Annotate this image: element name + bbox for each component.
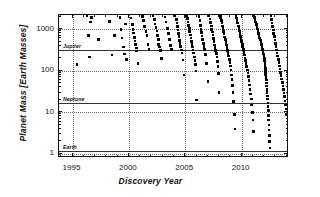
- data-point: [279, 71, 282, 74]
- data-point: [97, 38, 100, 41]
- x-tick: [263, 155, 264, 158]
- x-tick-top: [196, 14, 197, 17]
- reference-label-earth: Earth: [63, 144, 77, 150]
- data-point: [266, 88, 269, 91]
- y-tick: [58, 28, 62, 29]
- data-point: [113, 34, 116, 37]
- y-tick: [58, 79, 61, 80]
- data-point: [270, 15, 273, 18]
- data-point: [108, 20, 111, 23]
- data-point: [267, 109, 270, 112]
- x-tick-top: [105, 14, 106, 17]
- y-tick-right: [286, 35, 289, 36]
- data-point: [229, 61, 232, 64]
- y-tick: [58, 140, 61, 141]
- data-point: [266, 91, 269, 94]
- data-point: [208, 15, 211, 18]
- x-tick-top: [218, 14, 219, 17]
- data-point: [201, 38, 204, 41]
- data-point: [121, 37, 124, 40]
- data-point: [271, 22, 274, 25]
- data-point: [204, 53, 207, 56]
- x-tick-top: [94, 14, 95, 17]
- data-point: [217, 72, 220, 75]
- y-tick-right: [286, 128, 289, 129]
- data-point: [210, 25, 213, 28]
- x-tick: [173, 155, 174, 158]
- y-tick-right: [286, 82, 289, 83]
- data-point: [123, 53, 126, 56]
- data-point: [199, 19, 202, 22]
- y-tick-right: [286, 72, 289, 73]
- data-point: [122, 46, 125, 49]
- data-point: [274, 42, 277, 45]
- data-point: [216, 56, 219, 59]
- y-tick-right: [284, 28, 288, 29]
- y-tick-right: [284, 111, 288, 112]
- data-point: [267, 105, 270, 108]
- data-point: [174, 15, 177, 18]
- data-point: [207, 80, 210, 83]
- data-point: [132, 32, 135, 35]
- data-point: [130, 17, 133, 20]
- y-tick-right: [286, 133, 289, 134]
- data-point: [195, 70, 198, 73]
- data-point: [268, 134, 271, 137]
- y-tick: [58, 133, 61, 134]
- data-point: [280, 78, 283, 81]
- y-tick-label: 1: [20, 148, 54, 157]
- data-point: [209, 18, 212, 21]
- data-point: [200, 28, 203, 31]
- data-point: [189, 34, 192, 37]
- data-point: [233, 113, 236, 116]
- data-point: [270, 18, 273, 21]
- y-tick: [58, 82, 61, 83]
- data-point: [247, 75, 250, 78]
- y-tick-label: 1000: [20, 24, 54, 33]
- data-point: [234, 128, 237, 131]
- data-point: [250, 104, 253, 107]
- reference-label-jupiter: Jupiter: [63, 43, 81, 49]
- data-point: [274, 39, 277, 42]
- data-point: [279, 68, 282, 71]
- x-tick: [207, 155, 208, 158]
- x-tick-top: [207, 14, 208, 17]
- x-tick-label: 2000: [108, 163, 148, 172]
- data-point: [166, 27, 169, 30]
- y-tick-right: [286, 76, 289, 77]
- data-point: [212, 37, 215, 40]
- x-tick-label: 2005: [164, 163, 204, 172]
- data-point: [125, 58, 128, 61]
- data-point: [267, 102, 270, 105]
- y-tick-right: [284, 70, 288, 71]
- y-tick-right: [286, 45, 289, 46]
- data-point: [89, 21, 92, 24]
- data-point: [203, 48, 206, 51]
- data-point: [252, 130, 255, 133]
- data-point: [272, 29, 275, 32]
- data-point: [232, 100, 235, 103]
- data-point: [278, 65, 281, 68]
- x-tick-top: [72, 14, 73, 18]
- data-point: [285, 108, 288, 111]
- y-tick: [58, 153, 62, 154]
- data-point: [248, 84, 251, 87]
- y-tick: [58, 121, 61, 122]
- y-tick-right: [286, 16, 289, 17]
- x-tick: [229, 155, 230, 158]
- y-tick: [58, 113, 61, 114]
- y-tick: [58, 41, 61, 42]
- y-tick: [58, 76, 61, 77]
- data-point: [143, 25, 146, 28]
- y-tick: [58, 118, 61, 119]
- x-tick: [72, 153, 73, 157]
- reference-line-earth: [59, 151, 287, 152]
- data-point: [169, 44, 172, 47]
- y-tick: [58, 111, 62, 112]
- data-point: [271, 25, 274, 28]
- y-tick: [58, 45, 61, 46]
- data-point: [278, 61, 281, 64]
- data-point: [248, 79, 251, 82]
- data-point: [124, 23, 127, 26]
- data-point: [133, 36, 136, 39]
